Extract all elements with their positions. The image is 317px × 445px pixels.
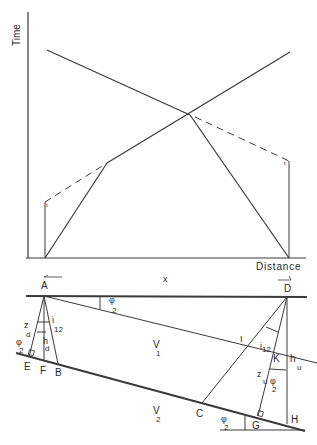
point-f: F	[40, 365, 46, 376]
point-h: H	[291, 414, 298, 425]
time-distance-plot: Time Distance t t	[11, 12, 306, 280]
zu-sub: u	[263, 377, 267, 386]
hu-symbol: h	[290, 353, 296, 364]
shot-point-d: D	[284, 283, 291, 294]
point-k: K	[273, 353, 280, 364]
forward-intercept-extension	[45, 163, 107, 202]
dip-angle-sub-bottom: 2	[224, 423, 229, 432]
critical-angle-arc-d	[266, 327, 278, 332]
dip-angle-sub-top: 2	[112, 306, 117, 315]
forward-refraction-line	[107, 52, 290, 163]
v2-sub: 2	[156, 415, 161, 424]
hu-sub: u	[297, 363, 301, 372]
reverse-intercept-extension	[195, 117, 289, 161]
reverse-intercept-tick: t	[284, 160, 286, 166]
point-i: I	[240, 334, 243, 344]
time-axis-label: Time	[11, 24, 22, 46]
forward-intercept-tick: t	[46, 202, 48, 208]
zu-symbol: z	[257, 369, 262, 379]
label-x: x	[163, 274, 168, 284]
point-g: G	[252, 420, 260, 431]
hu-angle-arc-d	[270, 369, 286, 370]
point-c: C	[196, 408, 203, 419]
critical-angle-sub-a: 12	[54, 325, 63, 334]
ground-surface	[26, 296, 307, 297]
zd-symbol: z	[24, 320, 29, 330]
shot-point-a: A	[41, 280, 48, 291]
critical-angle-symbol-a: i	[52, 315, 54, 325]
v1-sub: 1	[156, 349, 161, 358]
reverse-direct-segment	[190, 115, 289, 258]
zd-sub: d	[26, 330, 30, 339]
right-arrow-icon	[278, 276, 291, 280]
left-arrow-icon	[44, 275, 62, 277]
dip-angle-sub-left: 2	[19, 346, 24, 355]
hd-sub: d	[45, 344, 49, 353]
refraction-diagram: Time Distance t t x A D	[0, 0, 317, 445]
critical-angle-sub-d: 12	[262, 345, 271, 354]
distance-axis-label: Distance	[256, 261, 301, 272]
forward-direct-segment	[45, 163, 107, 258]
point-b: B	[55, 367, 62, 378]
dipping-layer-geometry: x A D φ 2 z d h d i 12 φ 2 E F B	[16, 274, 317, 432]
reverse-refraction-line	[47, 50, 190, 115]
dip-angle-sub-right: 2	[272, 385, 277, 394]
right-angle-e	[28, 350, 34, 356]
refractor-interface	[16, 353, 305, 431]
point-e: E	[24, 361, 31, 372]
dip-angle-symbol-top: φ	[109, 295, 115, 305]
ray-a-to-e	[29, 296, 44, 357]
